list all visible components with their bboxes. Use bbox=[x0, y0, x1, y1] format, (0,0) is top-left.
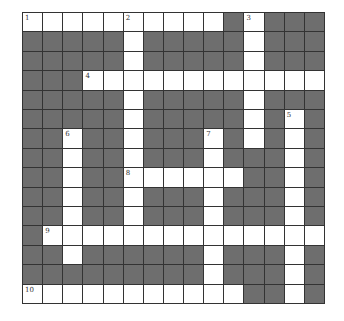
crossword-cell[interactable] bbox=[285, 246, 304, 264]
clue-number: 5 bbox=[287, 111, 291, 119]
crossword-cell[interactable] bbox=[124, 91, 143, 109]
crossword-cell[interactable]: 6 bbox=[63, 129, 82, 147]
crossword-block bbox=[43, 207, 62, 225]
crossword-block bbox=[43, 91, 62, 109]
crossword-cell[interactable] bbox=[164, 285, 183, 303]
crossword-cell[interactable] bbox=[124, 71, 143, 89]
crossword-cell[interactable] bbox=[285, 207, 304, 225]
crossword-block bbox=[305, 52, 324, 70]
crossword-cell[interactable] bbox=[63, 207, 82, 225]
crossword-cell[interactable] bbox=[204, 285, 223, 303]
crossword-cell[interactable]: 4 bbox=[83, 71, 102, 89]
crossword-cell[interactable] bbox=[204, 71, 223, 89]
crossword-cell[interactable] bbox=[244, 129, 263, 147]
crossword-cell[interactable] bbox=[104, 285, 123, 303]
crossword-cell[interactable] bbox=[244, 32, 263, 50]
crossword-cell[interactable] bbox=[305, 226, 324, 244]
crossword-cell[interactable] bbox=[204, 207, 223, 225]
crossword-cell[interactable] bbox=[224, 226, 243, 244]
crossword-cell[interactable] bbox=[104, 13, 123, 31]
crossword-cell[interactable] bbox=[63, 226, 82, 244]
crossword-cell[interactable] bbox=[144, 226, 163, 244]
crossword-cell[interactable] bbox=[63, 168, 82, 186]
crossword-cell[interactable] bbox=[164, 226, 183, 244]
crossword-cell[interactable] bbox=[83, 13, 102, 31]
crossword-cell[interactable] bbox=[164, 168, 183, 186]
crossword-cell[interactable] bbox=[124, 52, 143, 70]
crossword-block bbox=[23, 265, 42, 283]
crossword-cell[interactable] bbox=[164, 71, 183, 89]
crossword-cell[interactable] bbox=[124, 32, 143, 50]
clue-number: 4 bbox=[85, 72, 89, 80]
crossword-cell[interactable] bbox=[43, 13, 62, 31]
crossword-cell[interactable] bbox=[285, 168, 304, 186]
crossword-cell[interactable] bbox=[63, 246, 82, 264]
crossword-cell[interactable] bbox=[244, 110, 263, 128]
crossword-cell[interactable] bbox=[63, 188, 82, 206]
crossword-cell[interactable] bbox=[63, 285, 82, 303]
crossword-cell[interactable] bbox=[204, 168, 223, 186]
crossword-cell[interactable] bbox=[285, 226, 304, 244]
crossword-cell[interactable] bbox=[244, 71, 263, 89]
crossword-cell[interactable] bbox=[104, 71, 123, 89]
crossword-cell[interactable] bbox=[285, 129, 304, 147]
crossword-cell[interactable] bbox=[144, 168, 163, 186]
crossword-cell[interactable] bbox=[305, 71, 324, 89]
crossword-cell[interactable] bbox=[184, 285, 203, 303]
crossword-cell[interactable] bbox=[184, 71, 203, 89]
crossword-cell[interactable] bbox=[144, 13, 163, 31]
crossword-cell[interactable] bbox=[204, 13, 223, 31]
crossword-cell[interactable]: 2 bbox=[124, 13, 143, 31]
crossword-cell[interactable] bbox=[124, 110, 143, 128]
crossword-cell[interactable]: 9 bbox=[43, 226, 62, 244]
crossword-cell[interactable] bbox=[124, 207, 143, 225]
crossword-cell[interactable] bbox=[204, 226, 223, 244]
crossword-cell[interactable] bbox=[124, 149, 143, 167]
crossword-cell[interactable] bbox=[285, 265, 304, 283]
crossword-cell[interactable] bbox=[124, 188, 143, 206]
crossword-cell[interactable] bbox=[285, 285, 304, 303]
crossword-cell[interactable] bbox=[204, 246, 223, 264]
crossword-cell[interactable] bbox=[83, 226, 102, 244]
crossword-cell[interactable] bbox=[184, 226, 203, 244]
crossword-block bbox=[164, 188, 183, 206]
crossword-cell[interactable] bbox=[144, 285, 163, 303]
crossword-cell[interactable]: 5 bbox=[285, 110, 304, 128]
crossword-cell[interactable] bbox=[285, 149, 304, 167]
crossword-cell[interactable] bbox=[164, 13, 183, 31]
crossword-cell[interactable] bbox=[265, 226, 284, 244]
crossword-cell[interactable] bbox=[204, 265, 223, 283]
crossword-cell[interactable] bbox=[265, 71, 284, 89]
crossword-cell[interactable] bbox=[124, 226, 143, 244]
crossword-block bbox=[244, 188, 263, 206]
crossword-cell[interactable] bbox=[184, 168, 203, 186]
crossword-cell[interactable] bbox=[63, 149, 82, 167]
crossword-cell[interactable] bbox=[43, 285, 62, 303]
crossword-block bbox=[305, 149, 324, 167]
crossword-block bbox=[83, 52, 102, 70]
crossword-cell[interactable] bbox=[244, 52, 263, 70]
crossword-cell[interactable]: 3 bbox=[244, 13, 263, 31]
crossword-cell[interactable] bbox=[124, 285, 143, 303]
crossword-cell[interactable] bbox=[285, 188, 304, 206]
crossword-cell[interactable] bbox=[204, 149, 223, 167]
crossword-cell[interactable]: 7 bbox=[204, 129, 223, 147]
crossword-cell[interactable] bbox=[63, 13, 82, 31]
crossword-cell[interactable] bbox=[224, 168, 243, 186]
crossword-block bbox=[305, 32, 324, 50]
crossword-cell[interactable] bbox=[104, 226, 123, 244]
crossword-cell[interactable] bbox=[224, 285, 243, 303]
crossword-cell[interactable]: 8 bbox=[124, 168, 143, 186]
crossword-cell[interactable] bbox=[204, 188, 223, 206]
crossword-cell[interactable] bbox=[124, 129, 143, 147]
crossword-cell[interactable] bbox=[224, 71, 243, 89]
clue-number: 9 bbox=[45, 227, 49, 235]
crossword-cell[interactable] bbox=[184, 13, 203, 31]
crossword-cell[interactable] bbox=[244, 91, 263, 109]
crossword-cell[interactable] bbox=[144, 71, 163, 89]
crossword-cell[interactable] bbox=[244, 226, 263, 244]
crossword-cell[interactable] bbox=[285, 71, 304, 89]
crossword-cell[interactable]: 1 bbox=[23, 13, 42, 31]
crossword-cell[interactable]: 10 bbox=[23, 285, 42, 303]
crossword-cell[interactable] bbox=[83, 285, 102, 303]
